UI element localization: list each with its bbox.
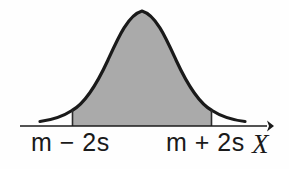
shaded-area-under-curve	[72, 11, 212, 126]
lower-bound-label: m − 2s	[31, 130, 110, 155]
upper-bound-label: m + 2s	[166, 130, 245, 155]
x-axis-variable-label: X	[252, 131, 269, 158]
normal-curve-figure: m − 2s m + 2s X	[0, 0, 289, 169]
